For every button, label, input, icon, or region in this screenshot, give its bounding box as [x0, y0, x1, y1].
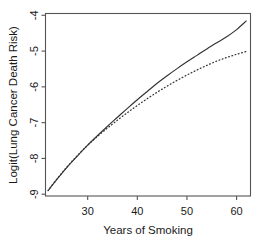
y-tick-label: -4: [28, 10, 40, 20]
x-tick-label: 50: [181, 205, 193, 217]
y-tick-label: -8: [28, 154, 40, 164]
x-axis-label: Years of Smoking: [103, 224, 193, 236]
lung-cancer-risk-line-chart: 30405060 -4-5-6-7-8-9 Years of Smoking L…: [0, 0, 264, 241]
y-axis-label: Logit(Lung Cancer Death Risk): [7, 26, 19, 184]
x-axis-ticks: [88, 196, 237, 200]
y-tick-label: -6: [28, 82, 40, 92]
dotted-curve: [48, 51, 247, 190]
chart-figure: 30405060 -4-5-6-7-8-9 Years of Smoking L…: [0, 0, 264, 241]
solid-curve: [48, 21, 247, 191]
y-tick-label: -5: [28, 46, 40, 56]
x-axis-tick-labels: 30405060: [82, 205, 243, 217]
y-axis-tick-labels: -4-5-6-7-8-9: [28, 10, 40, 199]
x-tick-label: 60: [230, 205, 242, 217]
data-series-group: [48, 21, 247, 191]
x-tick-label: 40: [131, 205, 143, 217]
y-tick-label: -7: [28, 118, 40, 128]
x-tick-label: 30: [82, 205, 94, 217]
y-axis-ticks: [42, 15, 46, 194]
y-tick-label: -9: [28, 189, 40, 199]
